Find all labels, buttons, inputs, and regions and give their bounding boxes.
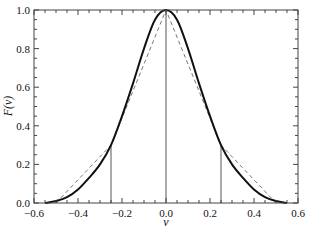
x-tick-label: −0.4	[68, 207, 88, 219]
y-tick-label: 0.8	[16, 43, 30, 55]
x-tick-label: −0.2	[112, 207, 132, 219]
x-axis-label: v	[163, 215, 169, 229]
plot-area	[45, 10, 287, 203]
chart: −0.6−0.4−0.20.00.20.40.60.00.20.40.60.81…	[0, 0, 312, 236]
y-tick-label: 0.4	[16, 120, 30, 132]
x-tick-label: 0.2	[203, 207, 217, 219]
y-tick-label: 0.0	[16, 197, 30, 209]
y-tick-label: 1.0	[16, 4, 30, 16]
axes: −0.6−0.4−0.20.00.20.40.60.00.20.40.60.81…	[16, 4, 305, 219]
x-tick-label: 0.6	[291, 207, 305, 219]
y-tick-label: 0.6	[16, 81, 30, 93]
y-axis-label: F(v)	[1, 96, 15, 118]
x-tick-label: 0.4	[247, 207, 261, 219]
y-tick-label: 0.2	[16, 158, 30, 170]
